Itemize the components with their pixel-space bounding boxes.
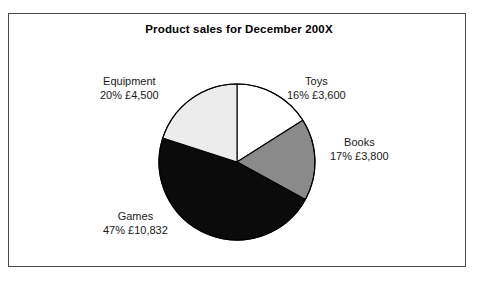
pie-label-games: Games 47% £10,832 xyxy=(103,209,168,237)
pie-label-toys-name: Toys xyxy=(287,74,346,88)
pie-label-toys: Toys 16% £3,600 xyxy=(287,74,346,102)
pie-svg xyxy=(0,0,478,281)
pie-chart-figure: Product sales for December 200X Toys 16%… xyxy=(0,0,478,281)
pie-label-books-value: 17% £3,800 xyxy=(330,149,389,163)
pie-label-books: Books 17% £3,800 xyxy=(330,135,389,163)
pie-label-equipment-value: 20% £4,500 xyxy=(100,88,159,102)
pie-label-equipment-name: Equipment xyxy=(100,74,159,88)
pie-slices xyxy=(159,84,315,240)
pie-label-games-name: Games xyxy=(103,209,168,223)
pie-label-books-name: Books xyxy=(330,135,389,149)
pie-label-games-value: 47% £10,832 xyxy=(103,223,168,237)
pie-label-toys-value: 16% £3,600 xyxy=(287,88,346,102)
pie-label-equipment: Equipment 20% £4,500 xyxy=(100,74,159,102)
